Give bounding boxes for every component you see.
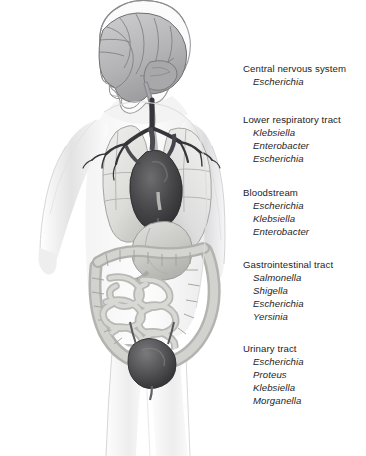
site-name-bloodstream: Bloodstream — [243, 186, 309, 199]
organism-bloodstream-0: Escherichia — [243, 199, 309, 212]
label-block-central-nervous-system: Central nervous system Escherichia — [243, 62, 346, 88]
label-block-bloodstream: Bloodstream Escherichia Klebsiella Enter… — [243, 186, 309, 238]
label-panel: Central nervous system Escherichia Lower… — [236, 0, 366, 456]
label-block-lower-respiratory-tract: Lower respiratory tract Klebsiella Enter… — [243, 113, 341, 165]
label-block-gastrointestinal-tract: Gastrointestinal tract Salmonella Shigel… — [243, 258, 333, 323]
organism-bloodstream-1: Klebsiella — [243, 212, 309, 225]
organism-bloodstream-2: Enterobacter — [243, 225, 309, 238]
organism-lrt-2: Escherichia — [243, 152, 341, 165]
organism-gi-3: Yersinia — [243, 310, 333, 323]
organism-gi-1: Shigella — [243, 284, 333, 297]
organism-urinary-2: Klebsiella — [243, 381, 304, 394]
organism-lrt-0: Klebsiella — [243, 126, 341, 139]
organism-urinary-0: Escherichia — [243, 355, 304, 368]
organism-cns-0: Escherichia — [243, 75, 346, 88]
site-name-cns: Central nervous system — [243, 62, 346, 75]
site-name-urinary: Urinary tract — [243, 342, 304, 355]
organism-lrt-1: Enterobacter — [243, 139, 341, 152]
organism-gi-2: Escherichia — [243, 297, 333, 310]
label-block-urinary-tract: Urinary tract Escherichia Proteus Klebsi… — [243, 342, 304, 407]
organism-urinary-3: Morganella — [243, 394, 304, 407]
organism-gi-0: Salmonella — [243, 271, 333, 284]
anatomical-figure: Central nervous system Escherichia Lower… — [0, 0, 366, 456]
site-name-lrt: Lower respiratory tract — [243, 113, 341, 126]
organism-urinary-1: Proteus — [243, 368, 304, 381]
site-name-gastrointestinal: Gastrointestinal tract — [243, 258, 333, 271]
